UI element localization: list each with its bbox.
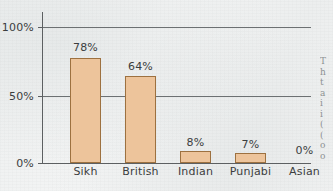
margin-text-line: ( [320, 119, 333, 130]
bar-value-sikh: 78% [64, 42, 107, 53]
bar-sikh [70, 58, 101, 163]
bar-indian [180, 151, 211, 163]
margin-text-line: o [320, 151, 333, 162]
y-axis-label-0: 0% [0, 158, 34, 169]
gridline-100 [42, 27, 311, 28]
margin-text-line: i [320, 109, 333, 120]
margin-text-line: o [320, 140, 333, 151]
page-margin-text: Thtaii((oo [320, 56, 333, 161]
y-axis-line [42, 12, 43, 164]
margin-text-line: h [320, 67, 333, 78]
category-label-british: British [117, 166, 164, 178]
bar-value-indian: 8% [174, 137, 217, 148]
category-label-indian: Indian [173, 166, 218, 178]
bar-value-punjabi: 7% [229, 139, 272, 150]
x-axis-line [42, 163, 311, 164]
y-tick-0 [38, 163, 42, 164]
margin-text-line: ( [320, 130, 333, 141]
bar-chart: 100% 50% 0% 78% Sikh 64% British 8% Indi… [0, 0, 333, 191]
bar-punjabi [235, 153, 266, 163]
category-label-asian: Asian [282, 166, 327, 178]
y-axis-label-50: 50% [0, 91, 34, 102]
margin-text-line: a [320, 88, 333, 99]
bar-british [125, 76, 156, 163]
y-axis-label-100: 100% [0, 22, 34, 33]
margin-text-line: t [320, 77, 333, 88]
y-tick-50 [38, 96, 42, 97]
category-label-sikh: Sikh [64, 166, 107, 178]
margin-text-line: T [320, 56, 333, 67]
y-tick-100 [38, 27, 42, 28]
bar-value-british: 64% [119, 61, 162, 72]
category-label-punjabi: Punjabi [227, 166, 274, 178]
margin-text-line: i [320, 98, 333, 109]
